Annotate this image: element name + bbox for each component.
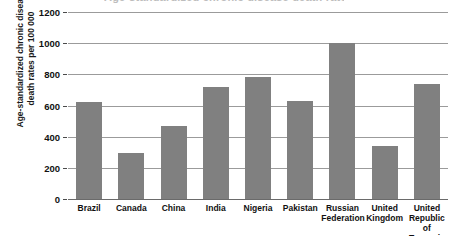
x-axis-label-line: United [364,203,406,213]
bar [161,126,187,199]
bar [287,101,313,199]
x-axis-label-line: India [195,203,237,213]
x-axis-label: Nigeria [237,203,279,213]
y-tick-mark-600 [63,106,67,107]
y-tick-mark-200 [63,168,67,169]
x-axis-label-line: Republic [406,213,448,223]
x-axis-label-line: of Tanzania [406,223,448,236]
y-tick-label-400: 400 [20,131,60,142]
x-axis-label-line: China [152,203,194,213]
y-tick-mark-1200 [63,12,67,13]
x-axis-label-line: Nigeria [237,203,279,213]
x-axis-label: India [195,203,237,213]
x-axis-label-line: Pakistan [279,203,321,213]
gridline-0 [68,199,448,200]
y-tick-label-1200: 1200 [20,7,60,18]
x-axis-label-line: United [406,203,448,213]
y-tick-mark-400 [63,137,67,138]
y-tick-mark-0 [63,199,67,200]
bars-layer [68,12,448,199]
y-tick-label-800: 800 [20,69,60,80]
x-axis-label: China [152,203,194,213]
bar [76,102,102,199]
x-axis-label: Brazil [68,203,110,213]
x-axis-labels: BrazilCanadaChinaIndiaNigeriaPakistanRus… [68,203,448,236]
x-axis-label-line: Federation [321,213,363,223]
x-axis-label-line: Brazil [68,203,110,213]
y-tick-mark-800 [63,74,67,75]
bar [372,146,398,199]
x-axis-label-line: Russian [321,203,363,213]
y-tick-mark-1000 [63,43,67,44]
x-axis-label: Canada [110,203,152,213]
y-tick-label-0: 0 [20,194,60,205]
chart-title-cropped: Age-standardized chronic disease death r… [104,0,344,3]
x-axis-label-line: Kingdom [364,213,406,223]
plot-area: 020040060080010001200 [68,12,448,199]
x-axis-label: Pakistan [279,203,321,213]
x-axis-label: UnitedRepublicof Tanzania [406,203,448,236]
bar [203,87,229,199]
bar [329,43,355,199]
y-tick-label-200: 200 [20,162,60,173]
y-tick-label-600: 600 [20,100,60,111]
chart-container: Age-standardized chronic disease death r… [0,0,462,236]
x-axis-label-line: Canada [110,203,152,213]
x-axis-label: UnitedKingdom [364,203,406,223]
y-tick-label-1000: 1000 [20,38,60,49]
x-axis-label: RussianFederation [321,203,363,223]
bar [245,77,271,199]
bar [414,84,440,199]
bar [118,153,144,199]
